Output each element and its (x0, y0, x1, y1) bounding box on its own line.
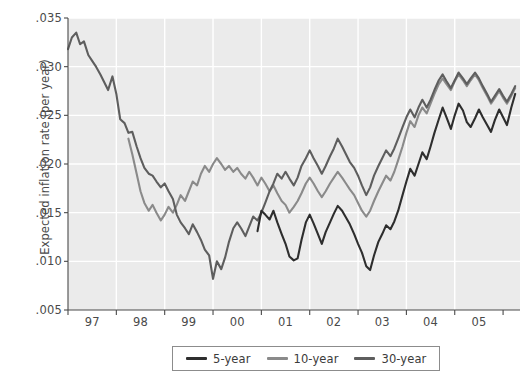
x-axis-tick-label: 02 (326, 315, 341, 329)
x-axis-tick-label: 04 (423, 315, 438, 329)
x-axis-tick-label: 05 (471, 315, 486, 329)
legend-item-30-year: 30-year (354, 352, 426, 366)
legend-item-10-year: 10-year (267, 352, 339, 366)
x-axis-tick-label: 99 (181, 315, 196, 329)
legend-swatch-icon (267, 357, 288, 360)
x-axis-tick-label: 98 (133, 315, 148, 329)
legend-swatch-icon (354, 357, 375, 360)
x-axis-tick-label: 97 (85, 315, 100, 329)
x-axis-tick-label: 00 (230, 315, 245, 329)
inflation-expectations-chart: Expected inflation rate (per year) .035.… (0, 0, 530, 380)
legend-swatch-icon (186, 357, 207, 360)
x-axis-tick-labels: 979899000102030405 (0, 315, 530, 335)
x-axis-tick-label: 03 (375, 315, 390, 329)
x-axis-tick-label: 01 (278, 315, 293, 329)
chart-legend: 5-year10-year30-year (172, 346, 440, 371)
legend-label: 30-year (381, 352, 426, 366)
legend-label: 10-year (294, 352, 339, 366)
legend-label: 5-year (213, 352, 251, 366)
legend-item-5-year: 5-year (186, 352, 251, 366)
